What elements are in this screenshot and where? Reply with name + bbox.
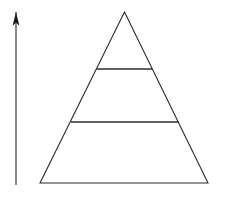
axis-arrow-hit-region[interactable] bbox=[10, 10, 22, 187]
pyramid-middle-tier[interactable] bbox=[70, 69, 178, 122]
pyramid-top-tier[interactable] bbox=[97, 12, 153, 69]
pyramid-diagram bbox=[0, 0, 225, 198]
pyramid-tier-regions bbox=[41, 12, 209, 183]
diagram-canvas bbox=[0, 0, 225, 198]
axis-arrow bbox=[10, 10, 22, 187]
